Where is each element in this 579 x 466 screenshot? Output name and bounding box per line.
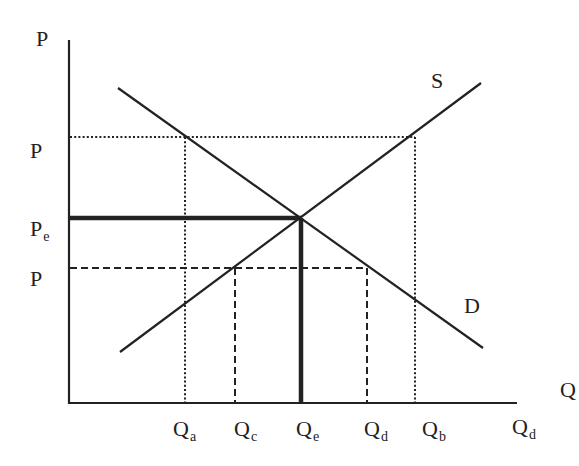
x-axis-label: Q	[560, 379, 576, 401]
qe-main: Q	[296, 416, 312, 441]
qa-sub: a	[190, 429, 196, 444]
qb-sub: b	[439, 429, 446, 444]
price-eq-sub: e	[43, 229, 49, 244]
qb-main: Q	[422, 416, 438, 441]
price-label-equilibrium: Pe	[30, 218, 49, 240]
qd2-main: Q	[512, 414, 528, 439]
supply-label: S	[431, 70, 443, 92]
qd2-sub: d	[529, 427, 536, 442]
qc-main: Q	[234, 416, 250, 441]
price-label-low: P	[30, 268, 42, 290]
quantity-label-qc: Qc	[234, 418, 257, 440]
quantity-label-qb: Qb	[422, 418, 446, 440]
qd-sub: d	[381, 429, 388, 444]
qe-sub: e	[313, 429, 319, 444]
quantity-label-qa: Qa	[173, 418, 196, 440]
qd-main: Q	[364, 416, 380, 441]
demand-label: D	[464, 295, 480, 317]
quantity-label-qd-axis: Qd	[512, 416, 536, 438]
supply-demand-diagram	[0, 0, 579, 466]
price-eq-main: P	[30, 216, 42, 241]
quantity-label-qd: Qd	[364, 418, 388, 440]
y-axis-label: P	[36, 28, 48, 50]
quantity-label-qe: Qe	[296, 418, 319, 440]
qc-sub: c	[251, 429, 257, 444]
price-label-high: P	[30, 140, 42, 162]
qa-main: Q	[173, 416, 189, 441]
